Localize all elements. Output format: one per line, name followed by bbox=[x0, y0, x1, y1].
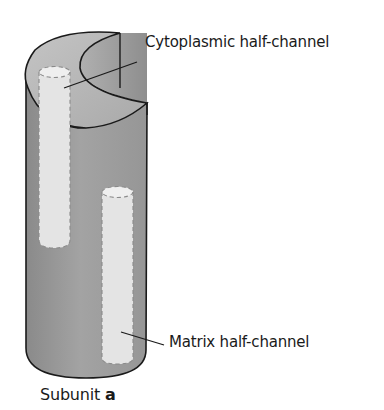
matrix-half-channel-label: Matrix half-channel bbox=[169, 333, 309, 351]
cytoplasmic-half-channel-label: Cytoplasmic half-channel bbox=[145, 33, 329, 51]
figure-caption: Subunit a bbox=[40, 385, 116, 404]
matrix-half-channel bbox=[102, 187, 133, 365]
caption-subunit-letter: a bbox=[105, 385, 116, 404]
cytoplasmic-half-channel bbox=[39, 67, 70, 249]
caption-prefix: Subunit bbox=[40, 385, 105, 404]
